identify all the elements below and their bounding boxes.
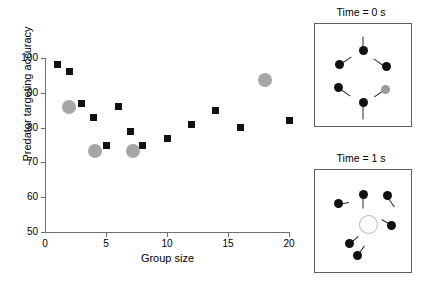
y-tick-label-wrap: 100 xyxy=(8,53,38,63)
data-point-black-squares xyxy=(139,142,146,149)
fish-marker-grey-icon xyxy=(381,85,390,94)
fish-marker-black-icon xyxy=(334,83,343,92)
y-tick-label-wrap: 80 xyxy=(8,123,38,133)
y-tick-mark xyxy=(41,232,46,233)
y-tick-mark xyxy=(41,93,46,94)
panel-time-1-box xyxy=(314,169,412,273)
y-tick-label: 80 xyxy=(12,123,38,133)
x-tick-mark xyxy=(106,232,107,237)
data-point-black-squares xyxy=(66,68,73,75)
panel-time-0: Time = 0 s xyxy=(300,6,422,136)
x-tick-mark xyxy=(228,232,229,237)
x-tick-mark xyxy=(167,232,168,237)
target-ring-icon xyxy=(359,215,378,234)
fish-marker-black-icon xyxy=(359,46,368,55)
data-point-grey-circles xyxy=(258,73,272,87)
data-point-grey-circles xyxy=(126,144,140,158)
x-tick-label: 0 xyxy=(33,238,57,249)
panel-time-1: Time = 1 s xyxy=(300,152,422,284)
y-tick-mark xyxy=(41,162,46,163)
y-tick-label: 60 xyxy=(12,192,38,202)
panel-time-0-title: Time = 0 s xyxy=(300,6,422,18)
figure-root: Predator targeting accuracy Group size 5… xyxy=(0,0,422,287)
data-point-black-squares xyxy=(54,61,61,68)
scatter-plot-panel: Predator targeting accuracy Group size 5… xyxy=(0,0,300,287)
fish-marker-black-icon xyxy=(335,60,344,69)
fish-marker-black-icon xyxy=(383,191,392,200)
fish-marker-black-icon xyxy=(359,98,368,107)
y-tick-mark xyxy=(41,58,46,59)
y-tick-label: 50 xyxy=(12,227,38,237)
fish-marker-black-icon xyxy=(382,62,391,71)
fish-marker-black-icon xyxy=(359,190,368,199)
fish-marker-black-icon xyxy=(387,221,396,230)
x-tick-label: 10 xyxy=(155,238,179,249)
data-point-black-squares xyxy=(212,107,219,114)
data-point-black-squares xyxy=(127,128,134,135)
y-tick-mark xyxy=(41,128,46,129)
data-point-black-squares xyxy=(103,142,110,149)
y-tick-label: 100 xyxy=(12,53,38,63)
data-point-grey-circles xyxy=(62,100,76,114)
x-tick-label: 20 xyxy=(277,238,301,249)
data-point-black-squares xyxy=(237,124,244,131)
fish-marker-black-icon xyxy=(353,251,362,260)
y-tick-label-wrap: 90 xyxy=(8,88,38,98)
x-tick-label: 5 xyxy=(94,238,118,249)
data-point-black-squares xyxy=(164,135,171,142)
data-point-grey-circles xyxy=(88,144,102,158)
fish-marker-black-icon xyxy=(345,239,354,248)
x-tick-mark xyxy=(289,232,290,237)
x-tick-label: 15 xyxy=(216,238,240,249)
data-point-black-squares xyxy=(286,117,293,124)
y-tick-mark xyxy=(41,197,46,198)
y-tick-label-wrap: 50 xyxy=(8,227,38,237)
data-point-black-squares xyxy=(188,121,195,128)
data-point-black-squares xyxy=(90,114,97,121)
x-axis-label: Group size xyxy=(45,252,290,264)
panel-time-1-title: Time = 1 s xyxy=(300,152,422,164)
panel-time-0-box xyxy=(314,23,412,127)
y-axis-line xyxy=(45,58,46,233)
data-point-black-squares xyxy=(115,103,122,110)
data-point-black-squares xyxy=(78,100,85,107)
y-tick-label-wrap: 60 xyxy=(8,192,38,202)
y-tick-label: 90 xyxy=(12,88,38,98)
fish-marker-black-icon xyxy=(334,199,343,208)
y-tick-label-wrap: 70 xyxy=(8,157,38,167)
y-tick-label: 70 xyxy=(12,157,38,167)
